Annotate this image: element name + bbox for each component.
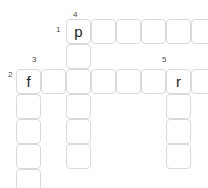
crossword-cell[interactable]	[16, 94, 41, 119]
crossword-cell[interactable]	[116, 19, 141, 44]
crossword-cell[interactable]	[191, 19, 208, 44]
crossword-cell[interactable]	[66, 69, 91, 94]
crossword-cell[interactable]	[116, 69, 141, 94]
crossword-cell[interactable]	[166, 119, 191, 144]
clue-number: 1	[56, 26, 60, 34]
clue-number: 5	[162, 56, 166, 64]
clue-number: 4	[73, 11, 77, 19]
crossword-cell[interactable]: f	[16, 69, 41, 94]
crossword-cell[interactable]: p	[66, 19, 91, 44]
crossword-cell[interactable]	[66, 144, 91, 169]
crossword-cell[interactable]: r	[166, 69, 191, 94]
cell-letter: p	[74, 24, 82, 39]
crossword-cell[interactable]	[141, 19, 166, 44]
crossword-cell[interactable]	[66, 119, 91, 144]
crossword-cell[interactable]	[66, 94, 91, 119]
crossword-cell[interactable]	[91, 19, 116, 44]
cell-letter: f	[26, 74, 30, 89]
crossword-cell[interactable]	[16, 169, 41, 188]
crossword-cell[interactable]	[41, 69, 66, 94]
crossword-puzzle: pfr12345	[0, 0, 208, 188]
crossword-cell[interactable]	[91, 69, 116, 94]
crossword-cell[interactable]	[166, 144, 191, 169]
crossword-cell[interactable]	[16, 144, 41, 169]
cell-letter: r	[176, 74, 181, 89]
crossword-cell[interactable]	[166, 94, 191, 119]
crossword-cell[interactable]	[16, 119, 41, 144]
crossword-cell[interactable]	[191, 69, 208, 94]
crossword-cell[interactable]	[66, 44, 91, 69]
clue-number: 2	[8, 71, 12, 79]
crossword-cell[interactable]	[141, 69, 166, 94]
crossword-cell[interactable]	[166, 19, 191, 44]
clue-number: 3	[32, 56, 36, 64]
